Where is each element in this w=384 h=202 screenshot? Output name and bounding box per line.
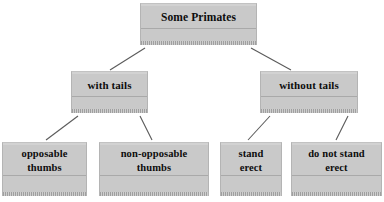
edge-root-to-with-tails <box>110 48 145 70</box>
node-some-primates[interactable]: Some Primates <box>140 3 257 45</box>
node-do-not-stand-erect[interactable]: do not stand erect <box>291 142 382 196</box>
node-label-with-tails: with tails <box>72 72 147 96</box>
primate-classification-diagram: Some Primates with tails without tails o… <box>0 0 384 202</box>
node-body <box>3 176 86 192</box>
node-label-some-primates: Some Primates <box>141 4 256 28</box>
node-opposable-thumbs[interactable]: opposable thumbs <box>2 142 87 196</box>
node-bottom-edge <box>3 192 86 196</box>
node-body <box>141 29 256 41</box>
node-bottom-edge <box>72 109 147 113</box>
edge-without-tails-to-not-stand-erect <box>336 116 348 140</box>
node-label-do-not-stand-erect: do not stand erect <box>292 143 381 175</box>
node-bottom-edge <box>292 192 381 196</box>
edge-with-tails-to-non-opposable <box>140 116 152 140</box>
node-label-non-opposable-thumbs: non-opposable thumbs <box>100 143 208 175</box>
node-bottom-edge <box>100 192 208 196</box>
edge-without-tails-to-stand-erect <box>248 116 270 140</box>
node-without-tails[interactable]: without tails <box>260 71 358 113</box>
node-label-without-tails: without tails <box>261 72 357 96</box>
node-label-opposable-thumbs: opposable thumbs <box>3 143 86 175</box>
node-stand-erect[interactable]: stand erect <box>220 142 282 196</box>
node-body <box>292 176 381 192</box>
node-with-tails[interactable]: with tails <box>71 71 148 113</box>
node-body <box>72 97 147 109</box>
node-body <box>261 97 357 109</box>
node-bottom-edge <box>221 192 281 196</box>
node-bottom-edge <box>261 109 357 113</box>
node-non-opposable-thumbs[interactable]: non-opposable thumbs <box>99 142 209 196</box>
edge-with-tails-to-opposable <box>46 116 78 140</box>
node-label-stand-erect: stand erect <box>221 143 281 175</box>
node-body <box>100 176 208 192</box>
edge-root-to-without-tails <box>251 48 291 70</box>
node-body <box>221 176 281 192</box>
node-bottom-edge <box>141 41 256 45</box>
